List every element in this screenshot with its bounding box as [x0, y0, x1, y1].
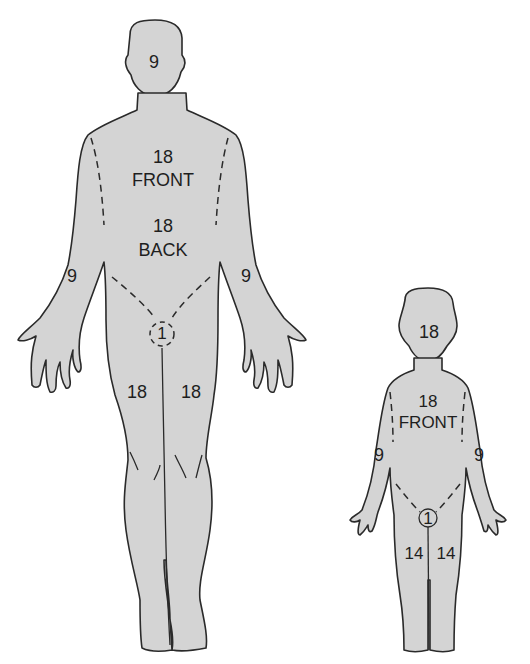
adult-left-leg-value: 18 [181, 382, 201, 402]
child-right-leg-value: 14 [405, 544, 424, 564]
child-trunk-front-label: FRONT [399, 413, 458, 433]
adult-right-arm-value: 9 [67, 266, 77, 286]
adult-head-value: 9 [149, 52, 159, 72]
child-head-value: 18 [419, 322, 439, 342]
adult-trunk-back-label: BACK [138, 240, 187, 260]
child-left-arm-value: 9 [474, 445, 484, 465]
child-left-leg-value: 14 [437, 544, 456, 564]
adult-trunk-back-value: 18 [153, 216, 173, 236]
adult-right-leg-value: 18 [127, 382, 147, 402]
child-trunk-front-value: 18 [419, 392, 438, 412]
adult-trunk-front-value: 18 [153, 147, 173, 167]
adult-trunk-front-label: FRONT [132, 170, 194, 190]
child-perineum-value: 1 [423, 509, 432, 529]
child-figure [350, 288, 506, 652]
body-diagram [0, 0, 530, 664]
adult-left-arm-value: 9 [241, 266, 251, 286]
child-right-arm-value: 9 [374, 445, 384, 465]
adult-perineum-value: 1 [157, 324, 166, 344]
